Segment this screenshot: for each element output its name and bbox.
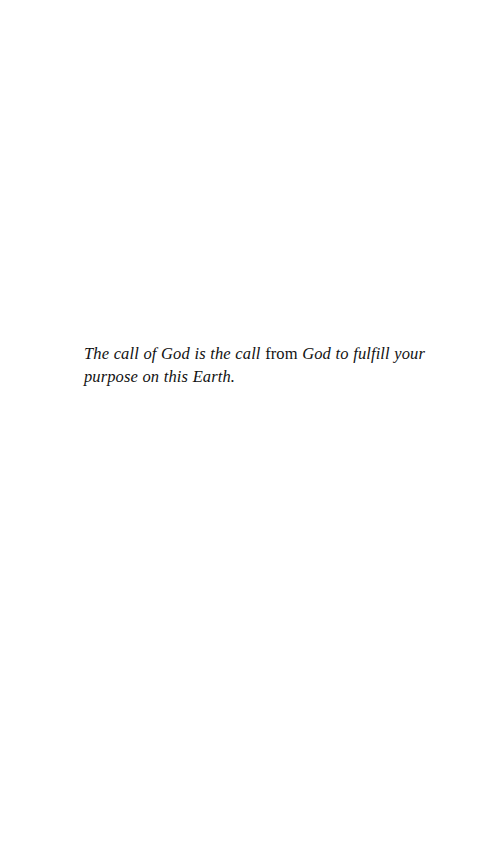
quote-paragraph: The call of God is the call from God to …	[84, 342, 480, 388]
quote-block: The call of God is the call from God to …	[84, 342, 480, 388]
quote-segment-italic-leading: The call of God is the call	[84, 344, 265, 363]
quote-segment-roman-from: from	[265, 344, 302, 363]
document-page: The call of God is the call from God to …	[0, 0, 480, 864]
